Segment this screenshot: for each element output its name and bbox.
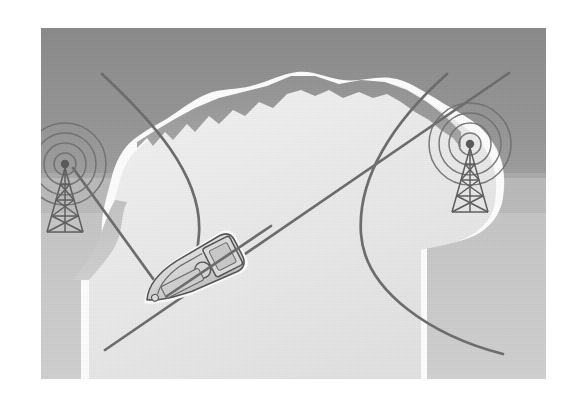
illustration-scene [41, 28, 546, 379]
figure-root [0, 0, 578, 400]
left-tower-antenna-point [61, 160, 69, 168]
scene-svg [41, 28, 546, 379]
right-tower-antenna-point [466, 140, 474, 148]
